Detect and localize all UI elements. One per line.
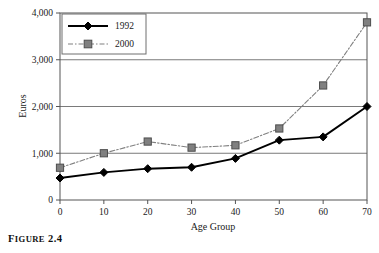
line-chart: 01,0002,0003,0004,000 010203040506070 Eu… (0, 0, 379, 253)
data-point-2000-10 (100, 150, 107, 157)
data-point-2000-60 (320, 82, 327, 89)
figure-caption-word: IGURE (15, 234, 45, 244)
legend-label-1992: 1992 (115, 21, 134, 31)
figure-caption: FIGURE 2.4 (8, 233, 62, 244)
y-tick-label-3000: 3,000 (32, 55, 54, 65)
x-tick-label-30: 30 (187, 207, 197, 217)
y-tick-label-0: 0 (48, 195, 53, 205)
x-tick-label-40: 40 (231, 207, 241, 217)
data-point-2000-40 (232, 142, 239, 149)
y-axis-title: Euros (17, 94, 28, 117)
x-tick-label-70: 70 (362, 207, 372, 217)
figure-caption-number-value: 2.4 (48, 233, 62, 244)
y-tick-label-2000: 2,000 (32, 102, 54, 112)
data-point-2000-70 (363, 19, 370, 26)
x-tick-label-10: 10 (99, 207, 109, 217)
data-point-2000-30 (188, 144, 195, 151)
data-point-2000-20 (144, 138, 151, 145)
y-tick-label-1000: 1,000 (32, 149, 54, 159)
x-axis-title: Age Group (191, 221, 236, 232)
legend-marker-2000 (84, 40, 92, 48)
figure-caption-lead: F (8, 233, 15, 244)
x-tick-label-0: 0 (58, 207, 63, 217)
x-tick-label-60: 60 (318, 207, 328, 217)
x-tick-label-20: 20 (143, 207, 153, 217)
y-tick-label-4000: 4,000 (32, 8, 54, 18)
chart-legend: 19922000 (62, 14, 146, 54)
legend-label-2000: 2000 (115, 39, 134, 49)
figure-container: 01,0002,0003,0004,000 010203040506070 Eu… (0, 0, 379, 253)
x-tick-label-50: 50 (275, 207, 285, 217)
data-point-2000-0 (56, 164, 63, 171)
data-point-2000-50 (276, 125, 283, 132)
